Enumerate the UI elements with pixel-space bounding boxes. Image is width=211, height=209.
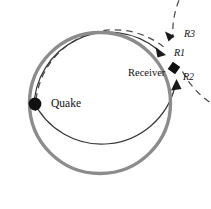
path-r2-solid	[33, 87, 175, 145]
path-label-r1: R1	[174, 48, 185, 58]
arrowhead-r2	[171, 79, 182, 91]
path-label-r3: R3	[184, 29, 195, 39]
arrowhead-r1	[156, 47, 167, 58]
receiver-label: Receiver	[128, 68, 165, 79]
quake-label: Quake	[51, 98, 81, 110]
receiver-marker	[168, 62, 181, 75]
seismic-wave-paths-diagram: Quake Receiver R1 R2 R3	[0, 0, 211, 209]
quake-marker	[29, 98, 42, 111]
path-r3-dashed	[173, 0, 211, 117]
diagram-canvas	[0, 0, 211, 209]
arrowhead-r3	[165, 32, 175, 42]
path-label-r2: R2	[183, 72, 194, 82]
